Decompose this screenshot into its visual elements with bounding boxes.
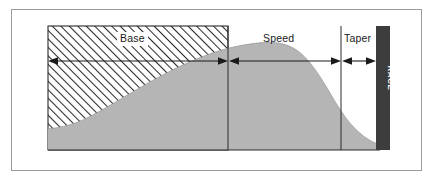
race-marker-label: RACE <box>386 55 394 101</box>
phase-label-base: Base <box>117 32 148 46</box>
phase-label-taper: Taper <box>344 33 371 44</box>
phase-label-speed: Speed <box>263 33 294 44</box>
periodization-diagram <box>0 0 436 182</box>
figure-root: Base Speed Taper RACE <box>0 0 436 182</box>
